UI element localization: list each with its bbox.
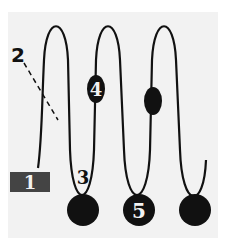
label-3: 3 xyxy=(77,167,90,188)
coil-line xyxy=(38,26,206,196)
bottom-bead-left xyxy=(67,194,99,226)
coil-diagram: 1 2 3 4 5 xyxy=(0,0,225,247)
bottom-bead-right xyxy=(179,194,211,226)
label-5: 5 xyxy=(132,199,146,223)
label-4: 4 xyxy=(90,79,103,100)
oval-marker-unlabeled xyxy=(144,87,162,115)
label-1: 1 xyxy=(24,172,37,193)
label-2: 2 xyxy=(11,43,25,67)
